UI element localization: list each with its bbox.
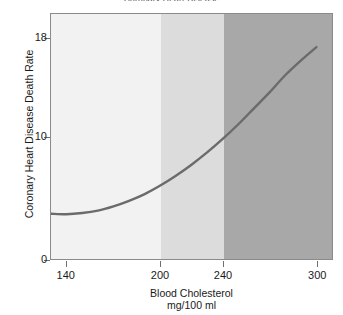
x-tick-label: 200 [151,269,169,281]
x-tick-label: 300 [308,269,326,281]
y-axis-title: Coronary Heart Disease Death Rate [23,9,35,259]
x-axis-title: Blood Cholesterol [50,287,333,299]
x-tick-mark [223,261,224,267]
plot-area [50,13,333,260]
x-axis-units: mg/100 ml [50,299,333,311]
y-tick-label: 18 [35,32,47,43]
chart-title: Coronary Heart Disease [0,0,343,1]
x-tick-mark [160,261,161,267]
x-tick-label: 240 [214,269,232,281]
y-tick-label: 10 [35,131,47,142]
y-tick-label: 0 [41,254,47,265]
chart-figure: Coronary Heart Disease 01018 14020024030… [0,0,343,315]
x-tick-mark [66,261,67,267]
x-tick-mark [317,261,318,267]
x-tick-label: 140 [57,269,75,281]
chd-curve [51,14,332,259]
